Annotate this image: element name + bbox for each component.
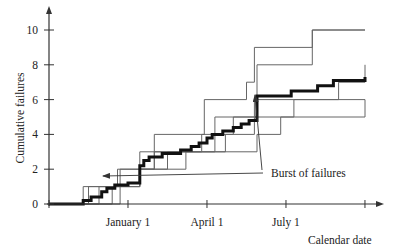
x-tick-label: January 1	[106, 216, 151, 229]
x-axis-label: Calendar date	[308, 234, 372, 246]
annotation-text: Burst of failures	[271, 167, 346, 179]
y-tick-label: 0	[32, 198, 38, 210]
x-axis-arrow-icon	[376, 201, 384, 207]
y-tick-label: 4	[32, 128, 38, 140]
y-axis-arrow-icon	[46, 6, 52, 14]
x-tick-label: April 1	[191, 216, 224, 229]
ticks-layer: 0246810January 1April 1July 1	[27, 24, 365, 229]
cumulative-failures-chart: 0246810January 1April 1July 1 Cumulative…	[0, 0, 394, 251]
y-axis-label: Cumulative failures	[14, 72, 26, 164]
y-tick-label: 6	[32, 94, 38, 106]
y-tick-label: 10	[27, 24, 39, 36]
annotation-arrow-left	[103, 173, 263, 176]
y-tick-label: 2	[32, 163, 38, 175]
y-tick-label: 8	[32, 59, 38, 71]
series-mean-bold-	[49, 77, 365, 204]
x-tick-label: July 1	[272, 216, 300, 229]
